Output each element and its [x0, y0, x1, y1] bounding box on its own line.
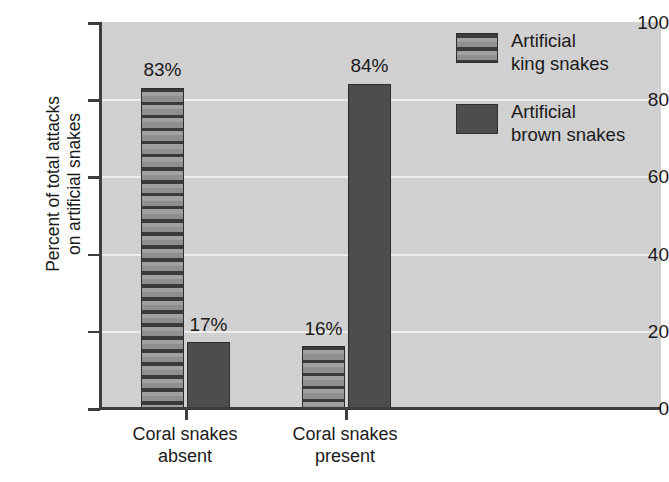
y-axis-title-line-1: Percent of total attacks	[43, 96, 64, 272]
bar-brown-snakes-present[interactable]	[348, 84, 391, 408]
bar-value-brown-absent: 17%	[149, 314, 269, 336]
y-tick-label-100: 100	[597, 12, 669, 34]
legend-label-king-snakes-line-1: Artificial	[511, 30, 609, 53]
x-tick-label-coral-present-line-2: present	[245, 446, 445, 468]
legend-label-brown-snakes-line-2: brown snakes	[511, 124, 625, 147]
x-tick-label-coral-present: Coral snakes present	[245, 424, 445, 468]
y-tick-0	[88, 408, 100, 411]
y-axis-line	[99, 22, 102, 409]
bar-value-king-absent: 83%	[103, 59, 223, 81]
legend-label-king-snakes-line-2: king snakes	[511, 53, 609, 76]
bar-value-king-present: 16%	[264, 318, 384, 340]
y-tick-label-60: 60	[597, 166, 669, 188]
y-tick-label-0: 0	[597, 398, 669, 420]
bar-chart-figure: Percent of total attacks on artificial s…	[0, 0, 669, 482]
y-tick-40	[88, 254, 100, 257]
plot-area: 83% 17% 16% 84% Artificial king snakes A…	[101, 22, 661, 408]
legend-swatch-king-snakes-icon	[456, 33, 498, 63]
x-tick-coral-absent	[185, 409, 188, 420]
bar-king-snakes-absent[interactable]	[141, 88, 184, 408]
y-tick-100	[88, 22, 100, 25]
bar-brown-snakes-absent[interactable]	[187, 342, 230, 408]
bar-king-snakes-present[interactable]	[302, 346, 345, 408]
y-tick-60	[88, 176, 100, 179]
x-tick-coral-present	[345, 409, 348, 420]
y-tick-80	[88, 99, 100, 102]
legend-item-king-snakes[interactable]: Artificial king snakes	[456, 30, 625, 75]
y-tick-20	[88, 331, 100, 334]
y-axis-title: Percent of total attacks on artificial s…	[40, 24, 88, 344]
x-tick-label-coral-present-line-1: Coral snakes	[245, 424, 445, 446]
y-tick-label-40: 40	[597, 244, 669, 266]
legend-swatch-brown-snakes-icon	[456, 104, 498, 134]
legend-label-king-snakes: Artificial king snakes	[511, 30, 609, 75]
y-axis-title-line-2: on artificial snakes	[64, 113, 85, 255]
bar-value-brown-present: 84%	[310, 55, 430, 77]
y-tick-label-80: 80	[597, 89, 669, 111]
y-tick-label-20: 20	[597, 321, 669, 343]
x-axis-line	[99, 407, 661, 410]
